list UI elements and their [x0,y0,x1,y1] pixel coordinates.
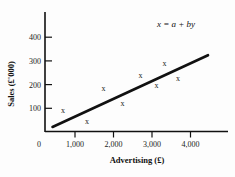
x-tick-label-4000: 4,000 [182,140,200,149]
x-tick-label-2000: 2,000 [105,140,123,149]
x-tick-label-0: 0 [37,140,41,149]
y-axis-title: Sales (£'000) [6,61,16,107]
data-point-marker: x [85,117,89,126]
data-point-marker: x [121,99,125,108]
regression-line [53,55,209,127]
x-tick-label-1000: 1,000 [66,140,84,149]
data-point-marker: x [155,81,159,90]
x-axis-title: Advertising (£) [110,155,165,165]
y-tick-label-400: 400 [29,33,41,42]
scatter-chart: 400 300 200 100 0 1,000 2,000 3,000 4,00… [0,0,235,177]
data-point-marker: x [176,74,180,83]
data-point-marker: x [102,84,106,93]
equation-annotation: x = a + by [156,19,195,29]
y-tick-label-100: 100 [29,104,41,113]
data-point-marker: x [163,59,167,68]
y-tick-label-300: 300 [29,57,41,66]
data-point-marker: x [61,106,65,115]
x-tick-label-3000: 3,000 [143,140,161,149]
y-tick-label-200: 200 [29,81,41,90]
chart-canvas: 400 300 200 100 0 1,000 2,000 3,000 4,00… [0,0,235,177]
data-point-marker: x [139,71,143,80]
